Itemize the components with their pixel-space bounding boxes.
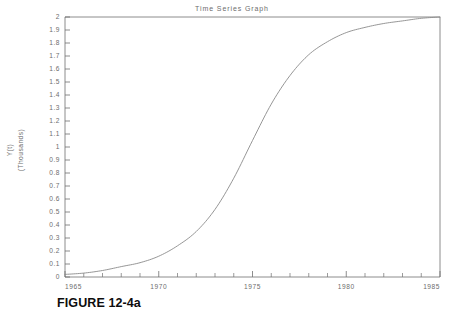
y-tick-label: 2 <box>56 13 60 20</box>
y-axis-title-group: Y(t) (Thousands) <box>6 129 25 172</box>
y-axis-units-label: (Thousands) <box>17 129 25 172</box>
y-axis-title: Y(t) <box>6 144 14 157</box>
y-tick-label: 1.6 <box>49 65 60 72</box>
y-tick-label: 0.8 <box>49 169 60 176</box>
figure-caption: FIGURE 12-4a <box>57 296 141 310</box>
y-tick-label: 1.5 <box>49 78 60 85</box>
y-tick-label: 0.7 <box>49 182 60 189</box>
y-axis-ticks <box>65 17 70 277</box>
y-tick-label: 1 <box>56 143 60 150</box>
y-tick-label: 0.5 <box>49 208 60 215</box>
plot-frame <box>65 17 440 277</box>
series-line-y-of-t <box>65 17 440 274</box>
y-axis-tick-labels: 00.10.20.30.40.50.60.70.80.911.11.21.31.… <box>49 13 60 280</box>
x-tick-label: 1970 <box>150 283 167 290</box>
y-tick-label: 1.3 <box>49 104 60 111</box>
y-tick-label: 1.9 <box>49 26 60 33</box>
y-tick-label: 0.1 <box>49 260 60 267</box>
x-tick-label: 1980 <box>338 283 355 290</box>
y-tick-label: 0.6 <box>49 195 60 202</box>
figure-container: Time Series Graph 00.10.20.30.40.50.60.7… <box>0 0 471 316</box>
y-tick-label: 1.4 <box>49 91 60 98</box>
x-tick-label: 1985 <box>423 283 440 290</box>
y-tick-label: 0 <box>56 273 60 280</box>
y-tick-label: 1.2 <box>49 117 60 124</box>
y-tick-label: 0.9 <box>49 156 60 163</box>
chart-title: Time Series Graph <box>195 5 269 13</box>
y-tick-label: 1.8 <box>49 39 60 46</box>
y-tick-label: 0.3 <box>49 234 60 241</box>
y-tick-label: 0.4 <box>49 221 60 228</box>
y-tick-label: 0.2 <box>49 247 60 254</box>
x-tick-label: 1965 <box>65 283 82 290</box>
chart-title-group: Time Series Graph <box>195 5 269 13</box>
y-tick-label: 1.7 <box>49 52 60 59</box>
x-tick-label: 1975 <box>244 283 261 290</box>
time-series-chart: Time Series Graph 00.10.20.30.40.50.60.7… <box>0 0 471 316</box>
y-tick-label: 1.1 <box>49 130 60 137</box>
x-axis-tick-labels: 19651970197519801985 <box>65 283 440 290</box>
